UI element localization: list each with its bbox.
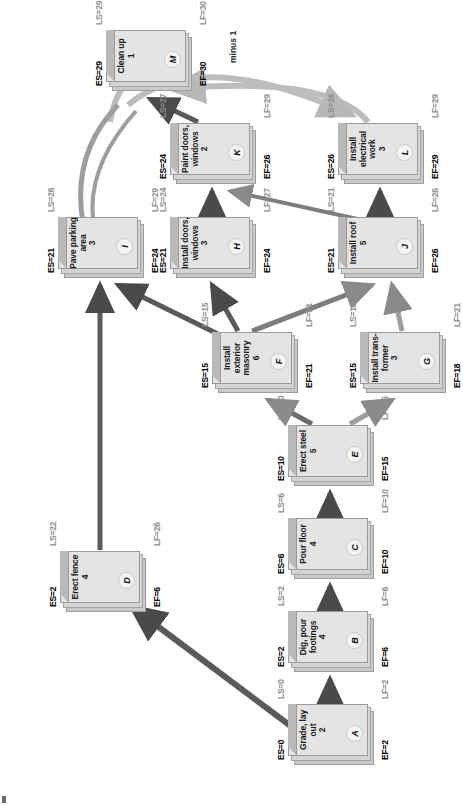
node-duration: 3 [389, 356, 399, 361]
node-id: J [396, 238, 413, 255]
node-lf: LF=27 [262, 188, 272, 212]
node-ls: LS=26 [46, 188, 56, 212]
node-name: Grade, lay out [298, 710, 318, 750]
node-es: ES=24 [158, 154, 168, 179]
node-label: Clean up 1 [117, 30, 136, 82]
node-ef: EF=21 [304, 364, 314, 388]
node-ef: EF=26 [262, 155, 272, 179]
node-ls: LS=10 [276, 396, 286, 420]
node-es: ES=2 [48, 587, 58, 607]
node-J[interactable]: Install roof 5 J ES=21 EF=26 LS=21 LF=26 [338, 216, 426, 278]
node-lf: LF=29 [150, 188, 160, 212]
node-ef: EF=6 [380, 647, 390, 667]
node-B[interactable]: Dig, pour footings 4 B ES=2 EF=6 LS=2 LF… [288, 610, 376, 672]
node-es: ES=10 [276, 456, 286, 481]
node-ef: EF=6 [152, 587, 162, 607]
node-name: Install electrical work [348, 131, 377, 167]
edge-layer [0, 0, 463, 805]
node-es: ES=15 [348, 363, 358, 388]
node-lf: LF=29 [262, 94, 272, 118]
node-M[interactable]: Clean up 1 M ES=29 EF=30 LS=29 LF=30 [106, 29, 194, 91]
node-G[interactable]: Install trans- former 3 G ES=15 EF=18 LS… [360, 331, 448, 393]
node-ls: LS=0 [276, 679, 286, 699]
edge-A-D [132, 607, 300, 733]
node-F[interactable]: Install exterior masonry 6 F ES=15 EF=21… [212, 331, 300, 393]
node-lf: LF=26 [152, 522, 162, 546]
node-K[interactable]: Paint doors, windows 2 K ES=24 EF=26 LS=… [170, 122, 258, 184]
corner-registration-mark [2, 796, 6, 803]
node-label: Install exterior masonry 6 [223, 332, 261, 384]
node-label: Erect steel 5 [299, 425, 318, 477]
node-id: L [396, 144, 413, 161]
node-D[interactable]: Erect fence 4 D ES=2 EF=6 LS=22 LF=26 [60, 550, 148, 612]
node-duration: 2 [199, 147, 209, 152]
node-es: ES=26 [326, 154, 336, 179]
node-lf: LF=21 [304, 303, 314, 327]
node-es: ES=15 [200, 363, 210, 388]
node-duration: 3 [87, 241, 97, 246]
node-es: ES=6 [276, 554, 286, 574]
node-ls: LS=27 [158, 94, 168, 118]
node-lf: LF=30 [198, 1, 208, 25]
node-ls: LS=22 [48, 522, 58, 546]
node-ef: EF=30 [198, 62, 208, 86]
node-ls: LS=2 [276, 586, 286, 606]
node-label: Pour floor 4 [299, 518, 318, 570]
node-lf: LF=2 [380, 680, 390, 699]
node-I[interactable]: Pave parking area 3 I ES=21 EF=24 LS=26 … [58, 216, 146, 278]
node-ef: EF=24 [262, 249, 272, 273]
node-ef: EF=2 [380, 740, 390, 760]
edge-F-H [212, 285, 238, 331]
node-es: ES=0 [276, 740, 286, 760]
node-name: Install exterior masonry [222, 341, 251, 376]
node-label: Dig, pour footings 4 [299, 611, 328, 663]
node-name: Paint doors, windows [180, 125, 200, 173]
node-ls: LS=15 [200, 303, 210, 327]
node-id: G [418, 353, 435, 370]
diagram-canvas: Grade, lay out 2 A ES=0 EF=2 LS=0 LF=2 D… [0, 0, 463, 805]
node-label: Install doors, windows 3 [181, 217, 210, 269]
node-name: Pave parking area [68, 217, 88, 269]
node-ls: LS=26 [326, 94, 336, 118]
node-id: C [346, 539, 363, 556]
node-id: M [164, 51, 181, 68]
node-lf: LF=15 [380, 396, 390, 420]
node-A[interactable]: Grade, lay out 2 A ES=0 EF=2 LS=0 LF=2 [288, 703, 376, 765]
node-es: ES=29 [94, 61, 104, 86]
node-ef: EF=18 [452, 364, 462, 388]
node-id: K [228, 144, 245, 161]
node-id: B [346, 632, 363, 649]
node-lf: LF=21 [452, 303, 462, 327]
node-duration: 6 [251, 356, 261, 361]
edge-G-J [392, 285, 402, 331]
node-L[interactable]: Install electrical work 3 L ES=26 EF=29 … [338, 122, 426, 184]
node-name: Erect steel [298, 430, 308, 472]
node-duration: 2 [317, 728, 327, 733]
node-E[interactable]: Erect steel 5 E ES=10 EF=15 LS=10 LF=15 [288, 424, 376, 486]
node-label: Install trans- former 3 [371, 332, 400, 384]
node-lf: LF=26 [430, 188, 440, 212]
node-duration: 3 [199, 241, 209, 246]
node-C[interactable]: Pour floor 4 C ES=6 EF=10 LS=6 LF=10 [288, 517, 376, 579]
node-id: H [228, 238, 245, 255]
node-ef: EF=26 [430, 249, 440, 273]
node-duration: 5 [308, 449, 318, 454]
node-name: Clean up [116, 38, 126, 73]
node-id: I [116, 238, 133, 255]
node-lf: LF=6 [380, 587, 390, 606]
node-H[interactable]: Install doors, windows 3 H ES=21 EF=24 L… [170, 216, 258, 278]
node-id: F [270, 353, 287, 370]
node-es: ES=21 [326, 248, 336, 273]
node-duration: 4 [317, 635, 327, 640]
node-es: ES=2 [276, 647, 286, 667]
node-duration: 5 [358, 241, 368, 246]
node-name: Install trans- former [370, 333, 390, 382]
node-ef: EF=24 [150, 249, 160, 273]
node-id: E [346, 446, 363, 463]
node-ef: EF=15 [380, 457, 390, 481]
node-label: Install roof 5 [349, 217, 368, 269]
node-label: Install electrical work 3 [349, 123, 387, 175]
node-es: ES=21 [46, 248, 56, 273]
node-id: D [118, 572, 135, 589]
node-id: A [346, 725, 363, 742]
